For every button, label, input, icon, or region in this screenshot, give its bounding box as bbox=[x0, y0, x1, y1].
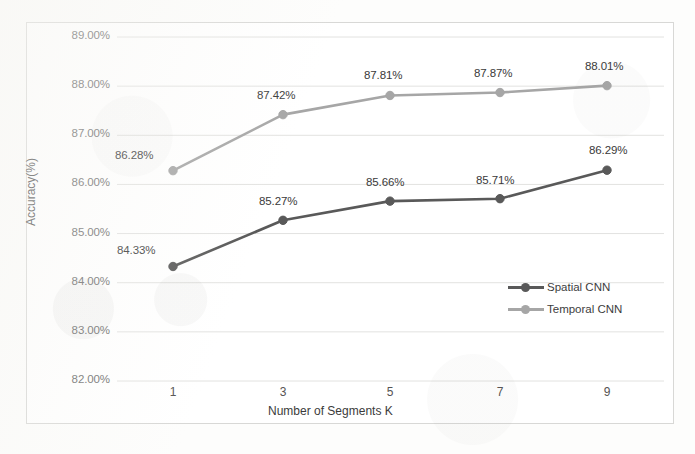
y-axis-tick-label: 83.00% bbox=[44, 324, 110, 336]
data-point-label: 86.28% bbox=[115, 149, 153, 161]
x-axis-tick-label: 5 bbox=[370, 385, 410, 399]
legend-marker-dot bbox=[521, 305, 530, 314]
y-axis-tick-label: 85.00% bbox=[44, 226, 110, 238]
y-axis-tick-label: 82.00% bbox=[44, 373, 110, 385]
legend-item-spatial-cnn[interactable]: Spatial CNN bbox=[508, 276, 622, 298]
chart-legend: Spatial CNNTemporal CNN bbox=[508, 276, 622, 320]
data-point-label: 85.27% bbox=[259, 195, 297, 207]
data-point-label: 84.33% bbox=[117, 244, 155, 256]
y-axis-tick-label: 84.00% bbox=[44, 275, 110, 287]
legend-marker-dot bbox=[521, 283, 530, 292]
x-axis-tick-label: 7 bbox=[480, 385, 520, 399]
data-point-label: 87.42% bbox=[257, 89, 295, 101]
legend-item-temporal-cnn[interactable]: Temporal CNN bbox=[508, 298, 622, 320]
legend-label: Temporal CNN bbox=[547, 303, 622, 315]
x-axis-tick-label: 3 bbox=[263, 385, 303, 399]
y-axis-title: Accuracy(%) bbox=[24, 137, 38, 247]
data-point-label: 87.81% bbox=[364, 69, 402, 81]
chart-frame bbox=[26, 22, 674, 424]
data-point-label: 87.87% bbox=[474, 67, 512, 79]
data-point-label: 85.71% bbox=[476, 174, 514, 186]
legend-swatch-icon bbox=[508, 303, 544, 315]
data-point-label: 88.01% bbox=[585, 60, 623, 72]
x-axis-title: Number of Segments K bbox=[268, 404, 393, 418]
data-point-label: 86.29% bbox=[589, 144, 627, 156]
legend-label: Spatial CNN bbox=[547, 281, 610, 293]
x-axis-tick-label: 1 bbox=[153, 385, 193, 399]
data-point-label: 85.66% bbox=[366, 176, 404, 188]
y-axis-tick-label: 88.00% bbox=[44, 78, 110, 90]
x-axis-tick-label: 9 bbox=[587, 385, 627, 399]
y-axis-tick-label: 87.00% bbox=[44, 127, 110, 139]
y-axis-tick-label: 89.00% bbox=[44, 29, 110, 41]
y-axis-tick-label: 86.00% bbox=[44, 176, 110, 188]
legend-swatch-icon bbox=[508, 281, 544, 293]
